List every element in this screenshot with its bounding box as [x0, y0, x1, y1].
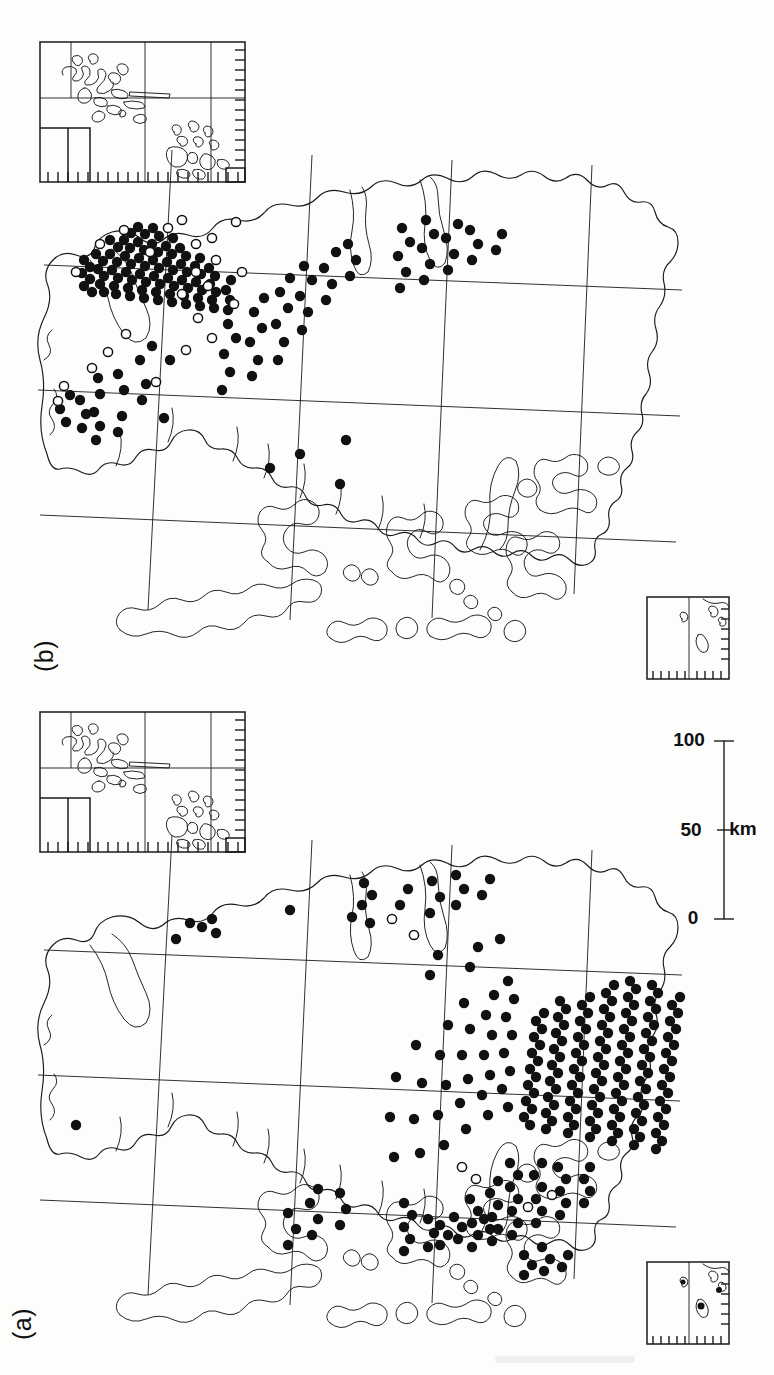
- scotland-detail-a: [44, 862, 519, 1235]
- scale-tick-50: 50: [678, 819, 704, 841]
- figure-distribution-maps: (b): [0, 0, 774, 1375]
- graticule-b: [38, 150, 682, 620]
- hebrides-b: [116, 454, 619, 642]
- scan-artefact: [495, 1356, 635, 1363]
- scale-unit-label: km: [729, 818, 757, 840]
- panel-a: (a): [0, 685, 774, 1375]
- record-dots-a: [71, 870, 685, 1280]
- scale-tick-0: 0: [684, 907, 702, 929]
- panel-b: (b): [0, 0, 774, 690]
- map-b-canvas: [0, 0, 774, 690]
- small-islands-inset-a: [645, 1260, 733, 1348]
- km-scale-bar: 0 50 100 km: [690, 735, 750, 925]
- small-islands-inset-b: [645, 595, 733, 683]
- scale-tick-100: 100: [672, 729, 706, 751]
- scotland-coastline-a: [38, 856, 678, 1250]
